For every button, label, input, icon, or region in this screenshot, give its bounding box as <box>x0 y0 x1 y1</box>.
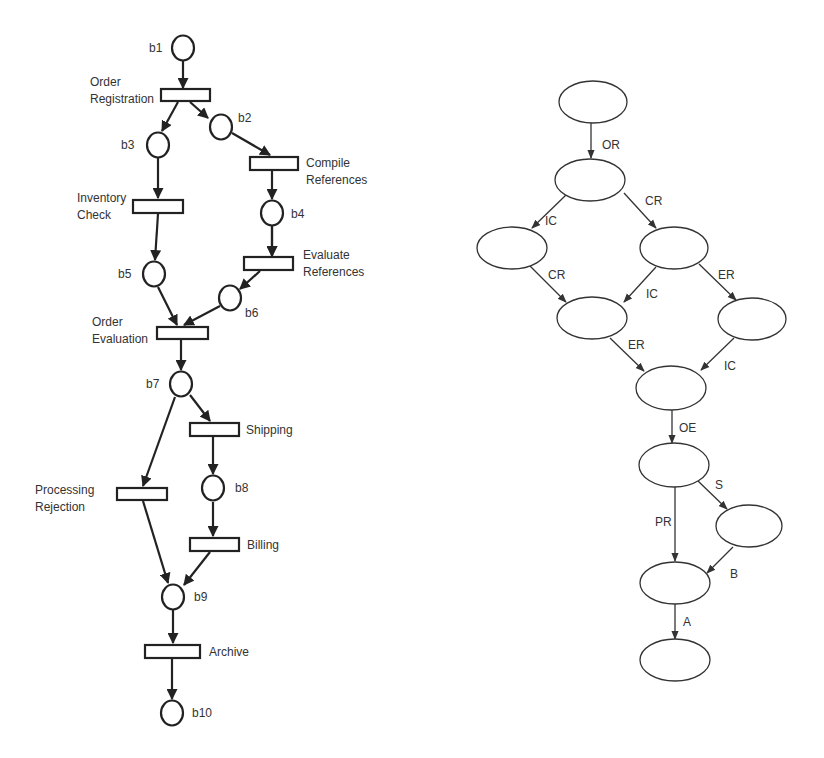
transition-label: Order <box>90 75 121 89</box>
petri-net-diagram: b1b2b3b4b5b6b7b8b9b10OrderRegistrationCo… <box>35 36 367 726</box>
transition-label: Check <box>77 208 112 222</box>
transition-label: Evaluation <box>92 332 148 346</box>
edge-label: CR <box>645 194 663 208</box>
arc-arrow <box>155 214 158 260</box>
place-b6 <box>219 286 241 311</box>
place-label: b9 <box>194 590 208 604</box>
arc-arrow <box>143 397 175 486</box>
arc-arrow <box>162 102 178 131</box>
transition-label: Inventory <box>77 191 126 205</box>
edge-label: ER <box>628 338 645 352</box>
arc-arrow <box>184 306 220 325</box>
place-b10 <box>161 701 183 726</box>
place-label: b8 <box>235 481 249 495</box>
transition-ic <box>133 200 183 213</box>
arc-arrow <box>190 395 210 421</box>
arc-arrow <box>158 287 177 325</box>
transition-er <box>244 257 293 270</box>
place-label: b3 <box>121 138 135 152</box>
edge-label: OR <box>602 138 620 152</box>
edge-label: S <box>715 478 723 492</box>
transition-label: Rejection <box>35 500 85 514</box>
transition-label: Compile <box>306 156 350 170</box>
place-b8 <box>202 476 224 501</box>
transition-label: Registration <box>90 92 154 106</box>
state-node-s1 <box>555 159 625 201</box>
transition-a <box>145 645 200 658</box>
edge-label: IC <box>646 287 658 301</box>
place-label: b6 <box>245 306 259 320</box>
transition-label: Evaluate <box>303 248 350 262</box>
transition-cr <box>250 157 298 170</box>
place-b3 <box>147 133 169 158</box>
state-node-s3 <box>640 227 708 269</box>
edge-label: OE <box>679 421 696 435</box>
state-node-s8 <box>716 505 782 547</box>
place-label: b1 <box>149 41 163 55</box>
place-b2 <box>210 115 232 140</box>
place-label: b5 <box>118 267 132 281</box>
edge-label: B <box>730 567 738 581</box>
transition-label: Processing <box>35 483 94 497</box>
edge-label: CR <box>548 268 566 282</box>
transition-pr <box>117 488 167 500</box>
state-node-s0 <box>559 81 627 123</box>
edge-label: ER <box>718 268 735 282</box>
state-node-s10 <box>640 639 710 681</box>
reachability-graph: ORICCRCRICERERICOESPRBA <box>477 81 786 681</box>
place-b1 <box>172 36 194 61</box>
place-label: b7 <box>146 377 160 391</box>
arc-arrow <box>240 271 260 289</box>
transition-label: Billing <box>247 538 279 552</box>
diagram-canvas: b1b2b3b4b5b6b7b8b9b10OrderRegistrationCo… <box>0 0 824 758</box>
state-node-s7 <box>639 443 709 487</box>
arc-arrow <box>184 552 210 585</box>
arc-arrow <box>232 133 270 155</box>
edge-label: IC <box>724 359 736 373</box>
state-node-s6 <box>636 366 706 410</box>
arc-arrow <box>143 501 168 583</box>
transition-b <box>190 538 239 551</box>
transition-or <box>161 89 210 101</box>
place-b4 <box>261 201 283 226</box>
state-node-s2 <box>477 227 547 269</box>
arc-arrow <box>190 102 208 118</box>
transition-label: Order <box>92 315 123 329</box>
place-b9 <box>162 585 184 610</box>
edge-label: IC <box>545 214 557 228</box>
state-node-s4 <box>557 297 627 339</box>
place-b5 <box>143 262 165 287</box>
place-label: b4 <box>291 207 305 221</box>
transition-s <box>190 423 239 436</box>
transition-label: References <box>306 173 367 187</box>
place-label: b10 <box>192 706 212 720</box>
state-node-s9 <box>640 562 710 604</box>
place-label: b2 <box>238 111 252 125</box>
place-b7 <box>170 372 192 397</box>
state-node-s5 <box>718 298 786 340</box>
edge-label: A <box>683 615 691 629</box>
transition-label: Shipping <box>246 423 293 437</box>
transition-label: Archive <box>209 645 249 659</box>
edge-label: PR <box>655 515 672 529</box>
transition-oe <box>157 327 208 339</box>
transition-label: References <box>303 265 364 279</box>
